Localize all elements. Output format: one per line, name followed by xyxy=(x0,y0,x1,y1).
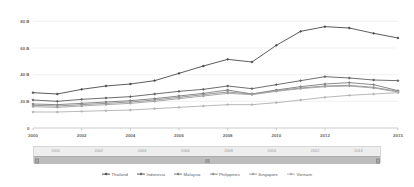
legend-item-thailand[interactable]: Thailand xyxy=(102,172,128,177)
legend-swatch-icon xyxy=(102,172,110,177)
legend-swatch-icon xyxy=(137,172,145,177)
legend-item-malaysia[interactable]: Malaysia xyxy=(174,172,200,177)
chart-plot-area: 020 B40 B60 B80 B 2000200220042006200820… xyxy=(0,0,414,145)
data-point xyxy=(105,110,107,112)
y-tick-label: 20 B xyxy=(20,99,29,104)
legend-label: Singapore xyxy=(258,172,278,177)
y-tick-label: 0 xyxy=(27,126,30,131)
legend-label: Philippines xyxy=(219,172,240,177)
data-point xyxy=(275,84,277,86)
data-point xyxy=(32,92,34,94)
data-point xyxy=(56,93,58,95)
data-point xyxy=(105,85,107,87)
data-point xyxy=(348,94,350,96)
data-point xyxy=(81,88,83,90)
legend-item-indonesia[interactable]: Indonesia xyxy=(137,172,165,177)
data-point xyxy=(397,80,399,82)
year-range-slider[interactable]: 20002002200420062008201020122014 xyxy=(33,146,381,163)
data-point xyxy=(251,104,253,106)
slider-year-label: 2002 xyxy=(94,149,103,153)
legend-item-vietnam[interactable]: Vietnam xyxy=(287,172,312,177)
data-point xyxy=(32,99,34,101)
x-tick-label: 2006 xyxy=(174,133,184,138)
y-tick-label: 60 B xyxy=(20,46,29,51)
data-point xyxy=(56,100,58,102)
data-point xyxy=(105,97,107,99)
y-axis-tick-labels: 020 B40 B60 B80 B xyxy=(20,19,30,131)
y-tick-label: 40 B xyxy=(20,72,29,77)
legend-swatch-icon xyxy=(174,172,182,177)
data-point xyxy=(154,80,156,82)
legend-label: Malaysia xyxy=(184,172,201,177)
data-point xyxy=(81,110,83,112)
data-point xyxy=(324,76,326,78)
data-point xyxy=(227,58,229,60)
slider-year-label: 2008 xyxy=(224,149,233,153)
series-line xyxy=(33,77,398,102)
slider-year-track: 20002002200420062008201020122014 xyxy=(34,147,380,156)
data-point xyxy=(129,83,131,85)
data-point xyxy=(81,98,83,100)
legend-label: Vietnam xyxy=(296,172,312,177)
slider-year-label: 2006 xyxy=(181,149,190,153)
slider-year-label: 2012 xyxy=(311,149,320,153)
y-tick-label: 80 B xyxy=(20,19,29,24)
data-point xyxy=(227,104,229,106)
legend-label: Thailand xyxy=(111,172,127,177)
data-point xyxy=(373,32,375,34)
data-point xyxy=(300,99,302,101)
x-tick-label: 2015 xyxy=(393,133,403,138)
data-point xyxy=(129,96,131,98)
legend-item-philippines[interactable]: Philippines xyxy=(210,172,240,177)
x-tick-label: 2004 xyxy=(125,133,135,138)
data-point xyxy=(202,65,204,67)
slider-handle-left[interactable] xyxy=(35,158,39,163)
gridlines xyxy=(33,21,398,101)
legend-swatch-icon xyxy=(210,172,218,177)
series-line xyxy=(33,27,398,94)
data-point xyxy=(178,90,180,92)
data-point xyxy=(373,79,375,81)
data-point xyxy=(202,88,204,90)
line-chart-widget: 020 B40 B60 B80 B 2000200220042006200820… xyxy=(0,0,414,187)
data-point xyxy=(348,82,350,84)
x-tick-label: 2002 xyxy=(77,133,87,138)
data-point xyxy=(324,96,326,98)
legend-swatch-icon xyxy=(287,172,295,177)
data-point xyxy=(178,72,180,74)
slider-drag-handle[interactable] xyxy=(205,159,210,163)
series-thailand xyxy=(32,26,399,96)
slider-selection-bar[interactable] xyxy=(34,156,380,164)
slider-handle-right[interactable] xyxy=(376,158,380,163)
data-point xyxy=(251,88,253,90)
x-tick-label: 2010 xyxy=(271,133,281,138)
data-point xyxy=(324,26,326,28)
data-point xyxy=(373,84,375,86)
x-axis-tick-labels: 20002002200420062008201020122015 xyxy=(28,133,403,138)
slider-year-label: 2004 xyxy=(138,149,147,153)
data-point xyxy=(154,93,156,95)
slider-year-label: 2010 xyxy=(267,149,276,153)
data-point xyxy=(348,77,350,79)
data-point xyxy=(178,106,180,108)
data-point xyxy=(56,111,58,113)
data-point xyxy=(129,109,131,111)
data-point xyxy=(397,37,399,39)
chart-legend: ThailandIndonesiaMalaysiaPhilippinesSing… xyxy=(0,167,414,181)
legend-label: Indonesia xyxy=(146,172,165,177)
data-point xyxy=(275,102,277,104)
x-tick-label: 2012 xyxy=(320,133,330,138)
data-point xyxy=(373,93,375,95)
slider-year-label: 2014 xyxy=(354,149,363,153)
data-point xyxy=(202,105,204,107)
data-point xyxy=(227,85,229,87)
data-series-group xyxy=(32,26,399,114)
legend-item-singapore[interactable]: Singapore xyxy=(249,172,278,177)
x-tick-label: 2000 xyxy=(28,133,38,138)
legend-swatch-icon xyxy=(249,172,257,177)
series-line xyxy=(33,93,398,112)
x-axis xyxy=(33,128,398,131)
data-point xyxy=(348,27,350,29)
data-point xyxy=(154,108,156,110)
data-point xyxy=(300,80,302,82)
